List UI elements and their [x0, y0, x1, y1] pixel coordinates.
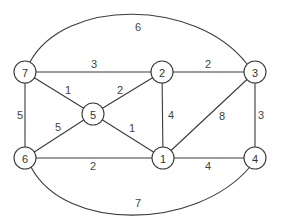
node-label: 5: [90, 109, 96, 121]
node-label: 1: [160, 153, 166, 165]
edge-weight-7-5: 1: [65, 84, 71, 96]
node-label: 6: [22, 153, 28, 165]
node-1: 1: [152, 147, 174, 169]
edge-3-1: [163, 72, 255, 158]
node-6: 6: [14, 147, 36, 169]
node-7: 7: [14, 61, 36, 83]
edge-weight-1-4: 4: [205, 160, 211, 172]
edge-5-2: [93, 72, 162, 114]
edge-weight-2-1: 4: [168, 109, 174, 121]
edge-2-1: [162, 72, 163, 158]
node-4: 4: [244, 147, 266, 169]
edge-weight-6-4: 7: [135, 197, 141, 209]
node-label: 7: [22, 67, 28, 79]
node-5: 5: [82, 103, 104, 125]
edge-weight-5-6: 5: [55, 121, 61, 133]
graph-diagram: 32512483512467 1234567: [0, 0, 281, 222]
node-label: 2: [159, 67, 165, 79]
nodes-layer: 1234567: [14, 61, 266, 169]
edge-weight-3-4: 3: [258, 109, 264, 121]
node-label: 4: [252, 153, 258, 165]
edge-weight-5-2: 2: [117, 84, 123, 96]
edge-weight-6-1: 2: [90, 160, 96, 172]
node-label: 3: [252, 67, 258, 79]
edge-5-1: [93, 114, 163, 158]
edge-weight-7-6: 5: [17, 109, 23, 121]
edge-weight-7-2: 3: [91, 58, 97, 70]
edge-weight-2-3: 2: [205, 58, 211, 70]
edge-weight-7-3: 6: [135, 21, 141, 33]
edge-weight-5-1: 1: [129, 122, 135, 134]
edge-weight-3-1: 8: [219, 110, 225, 122]
edge-7-5: [25, 72, 93, 114]
edge-weights-layer: 32512483512467: [17, 21, 264, 209]
node-2: 2: [151, 61, 173, 83]
node-3: 3: [244, 61, 266, 83]
